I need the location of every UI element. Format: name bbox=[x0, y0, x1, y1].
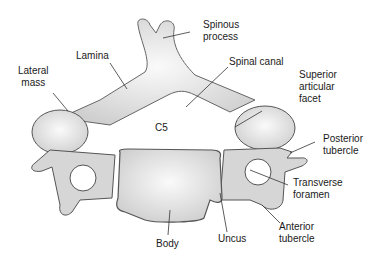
label-uncus: Uncus bbox=[218, 233, 246, 245]
transverse-foramen-right bbox=[245, 159, 271, 185]
vertebra-illustration bbox=[0, 0, 387, 263]
label-superior-articular-facet: Superior articular facet bbox=[299, 69, 337, 105]
label-spinous-process: Spinous process bbox=[203, 19, 239, 43]
superior-articular-facet-shape bbox=[235, 106, 295, 150]
label-anterior-tubercle: Anterior tubercle bbox=[279, 221, 315, 245]
label-lateral-mass: Lateral mass bbox=[18, 65, 49, 89]
vertebral-body-shape bbox=[117, 149, 222, 222]
label-body: Body bbox=[156, 238, 179, 250]
label-c5: C5 bbox=[155, 122, 168, 134]
lateral-mass-left-shape bbox=[32, 110, 88, 154]
label-spinal-canal: Spinal canal bbox=[229, 56, 283, 68]
label-lamina: Lamina bbox=[76, 50, 109, 62]
transverse-foramen-left bbox=[70, 165, 96, 191]
label-transverse-foramen: Transverse foramen bbox=[293, 177, 343, 201]
label-posterior-tubercle: Posterior tubercle bbox=[323, 133, 363, 157]
